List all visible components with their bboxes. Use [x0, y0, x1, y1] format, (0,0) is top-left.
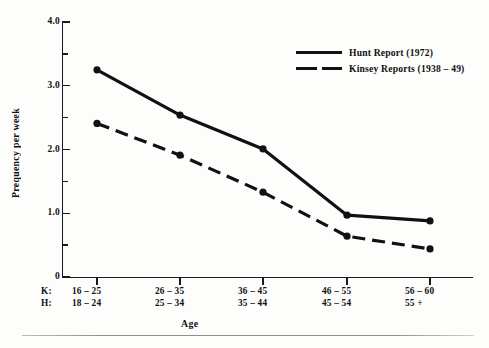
- data-point-marker: [176, 112, 183, 119]
- series-line: [97, 123, 430, 248]
- x-axis-category-labels: K:16 – 2526 – 3536 – 4546 – 5556 – 60H:1…: [0, 286, 489, 312]
- x-category-label: 36 – 45: [238, 286, 267, 296]
- legend-item: Kinsey Reports (1938 – 49): [296, 61, 486, 77]
- legend-label: Hunt Report (1972): [349, 45, 433, 60]
- chart-legend: Hunt Report (1972)Kinsey Reports (1938 –…: [296, 45, 486, 77]
- legend-swatch: [296, 51, 342, 54]
- data-point-marker: [259, 145, 266, 152]
- data-point-marker: [426, 245, 433, 252]
- x-category-label: 45 – 54: [322, 298, 351, 308]
- x-category-label: 55 +: [405, 298, 423, 308]
- data-point-marker: [343, 212, 350, 219]
- data-point-marker: [343, 233, 350, 240]
- data-point-marker: [426, 217, 433, 224]
- chart-figure: 01.02.03.04.0 Prequency per week Age K:1…: [0, 0, 489, 348]
- x-category-label: 35 – 44: [238, 298, 267, 308]
- x-category-label: 56 – 60: [405, 286, 434, 296]
- data-point-marker: [259, 189, 266, 196]
- legend-swatch: [296, 67, 342, 70]
- data-point-marker: [93, 66, 100, 73]
- hunt-row-key: H:: [41, 298, 52, 308]
- x-category-label: 18 – 24: [72, 298, 101, 308]
- plot-area: 01.02.03.04.0 Prequency per week Age K:1…: [0, 0, 489, 348]
- legend-item: Hunt Report (1972): [296, 45, 486, 61]
- data-point-marker: [176, 152, 183, 159]
- x-category-label: 46 – 55: [322, 286, 351, 296]
- legend-label: Kinsey Reports (1938 – 49): [349, 61, 465, 76]
- x-category-label: 26 – 35: [155, 286, 184, 296]
- x-category-label: 16 – 25: [72, 286, 101, 296]
- data-point-marker: [93, 120, 100, 127]
- kinsey-row-key: K:: [41, 286, 52, 296]
- footer-divider: [22, 335, 474, 336]
- x-category-label: 25 – 34: [155, 298, 184, 308]
